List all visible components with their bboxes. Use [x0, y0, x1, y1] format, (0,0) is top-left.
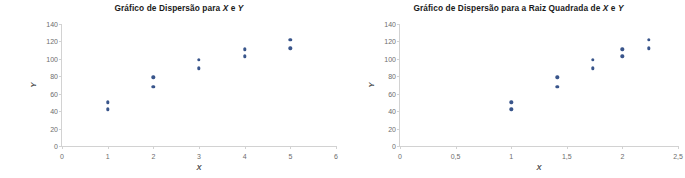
- plot-area: Y X 02040608010012014000,511,522,5: [399, 24, 678, 147]
- data-point: [556, 75, 559, 78]
- data-point: [621, 48, 624, 51]
- chart-title-middle: e: [228, 3, 238, 13]
- x-tick-mark: [108, 146, 109, 149]
- data-point: [243, 48, 246, 51]
- y-tick-mark: [397, 59, 400, 60]
- y-tick-mark: [59, 24, 62, 25]
- x-tick-label: 4: [243, 153, 247, 160]
- y-axis-label: Y: [367, 82, 376, 87]
- x-tick-mark: [400, 146, 401, 149]
- y-tick-mark: [59, 41, 62, 42]
- x-tick-mark: [62, 146, 63, 149]
- y-tick-label: 80: [50, 73, 58, 80]
- x-tick-mark: [290, 146, 291, 149]
- y-tick-label: 100: [384, 55, 396, 62]
- x-tick-label: 2,5: [673, 153, 683, 160]
- chart-title-before: Gráfico de Dispersão para a Raiz Quadrad…: [413, 3, 602, 13]
- chart-title: Gráfico de Dispersão para X e Y: [14, 3, 344, 13]
- x-tick-label: 0: [398, 153, 402, 160]
- y-tick-label: 100: [46, 55, 58, 62]
- y-tick-label: 20: [50, 125, 58, 132]
- y-tick-label: 40: [388, 108, 396, 115]
- data-point: [591, 58, 594, 61]
- data-point: [509, 101, 512, 104]
- x-axis-label: X: [196, 163, 201, 172]
- x-tick-mark: [153, 146, 154, 149]
- y-tick-mark: [59, 129, 62, 130]
- x-tick-label: 2: [620, 153, 624, 160]
- chart-scatter-sqrt-x-y: Gráfico de Dispersão para a Raiz Quadrad…: [352, 0, 685, 178]
- data-point: [152, 75, 155, 78]
- data-point: [106, 108, 109, 111]
- x-tick-label: 1: [106, 153, 110, 160]
- x-tick-label: 3: [197, 153, 201, 160]
- data-point: [106, 101, 109, 104]
- x-tick-label: 5: [288, 153, 292, 160]
- y-tick-label: 20: [388, 125, 396, 132]
- y-tick-mark: [59, 111, 62, 112]
- y-tick-mark: [397, 41, 400, 42]
- y-tick-label: 60: [388, 90, 396, 97]
- x-tick-mark: [456, 146, 457, 149]
- x-tick-label: 1: [509, 153, 513, 160]
- x-axis-label: X: [536, 163, 541, 172]
- y-tick-mark: [59, 94, 62, 95]
- y-tick-label: 0: [392, 143, 396, 150]
- y-tick-mark: [59, 76, 62, 77]
- data-point: [289, 38, 292, 41]
- x-tick-mark: [511, 146, 512, 149]
- data-point: [152, 85, 155, 88]
- y-tick-mark: [397, 24, 400, 25]
- data-point: [289, 47, 292, 50]
- chart-title-middle: e: [608, 3, 618, 13]
- data-point: [197, 58, 200, 61]
- x-tick-label: 0: [60, 153, 64, 160]
- left-margin-strip: [4, 0, 13, 178]
- x-tick-mark: [199, 146, 200, 149]
- x-tick-mark: [567, 146, 568, 149]
- y-tick-mark: [397, 94, 400, 95]
- x-tick-label: 1,5: [562, 153, 572, 160]
- x-tick-mark: [622, 146, 623, 149]
- data-point: [556, 85, 559, 88]
- screenshot-root: Gráfico de Dispersão para X e Y Y X 0204…: [0, 0, 685, 178]
- x-tick-mark: [678, 146, 679, 149]
- y-tick-label: 80: [388, 73, 396, 80]
- y-tick-label: 60: [50, 90, 58, 97]
- data-point: [591, 67, 594, 70]
- y-tick-mark: [397, 129, 400, 130]
- y-tick-mark: [397, 76, 400, 77]
- chart-title-var-y: Y: [618, 3, 624, 13]
- y-tick-mark: [397, 111, 400, 112]
- data-point: [243, 55, 246, 58]
- data-point: [509, 108, 512, 111]
- chart-scatter-x-y: Gráfico de Dispersão para X e Y Y X 0204…: [14, 0, 344, 178]
- x-tick-label: 6: [334, 153, 338, 160]
- x-tick-mark: [245, 146, 246, 149]
- y-tick-label: 120: [46, 38, 58, 45]
- data-point: [647, 38, 650, 41]
- data-point: [647, 47, 650, 50]
- y-tick-label: 120: [384, 38, 396, 45]
- y-tick-mark: [59, 59, 62, 60]
- chart-title-before: Gráfico de Dispersão para: [114, 3, 222, 13]
- data-point: [197, 67, 200, 70]
- y-tick-label: 40: [50, 108, 58, 115]
- x-tick-label: 2: [151, 153, 155, 160]
- chart-title: Gráfico de Dispersão para a Raiz Quadrad…: [352, 3, 685, 13]
- y-tick-label: 140: [384, 21, 396, 28]
- y-tick-label: 0: [54, 143, 58, 150]
- data-point: [621, 55, 624, 58]
- x-tick-mark: [336, 146, 337, 149]
- y-tick-label: 140: [46, 21, 58, 28]
- y-axis-label: Y: [29, 82, 38, 87]
- plot-area: Y X 0204060801001201400123456: [61, 24, 336, 147]
- x-tick-label: 0,5: [451, 153, 461, 160]
- chart-title-var-y: Y: [238, 3, 244, 13]
